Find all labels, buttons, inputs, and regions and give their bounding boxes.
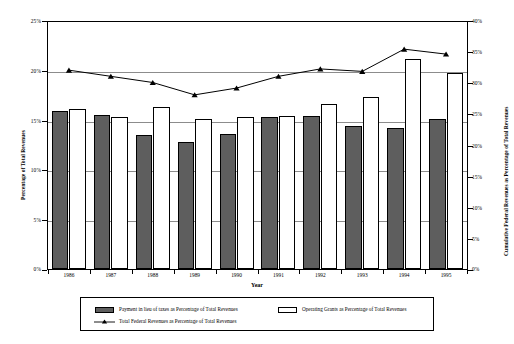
x-axis-label-1989: 1989 — [175, 272, 215, 278]
y-right-tick-10: 10% — [472, 205, 498, 211]
y-left-tick-5: 5% — [15, 217, 41, 223]
y-left-tick-20: 20% — [15, 68, 41, 74]
x-axis-label-1986: 1986 — [49, 272, 89, 278]
x-axis-label-1994: 1994 — [384, 272, 424, 278]
legend-swatch-operating-grants — [278, 307, 297, 313]
x-axis-label-1992: 1992 — [300, 272, 340, 278]
x-axis-title: Year — [0, 282, 514, 288]
y-left-tick-15: 15% — [15, 118, 41, 124]
y-right-tick-20: 20% — [472, 143, 498, 149]
y-right-tick-30: 30% — [472, 80, 498, 86]
y-axis-left-title: Percentage of Total Revenues — [20, 130, 26, 200]
x-axis-label-1991: 1991 — [258, 272, 298, 278]
legend-label-operating-grants: Operating Grants as Percentage of Total … — [302, 306, 406, 312]
legend-label-payment-in-lieu: Payment in lieu of taxes as Percentage o… — [119, 306, 238, 312]
x-axis-label-1990: 1990 — [217, 272, 257, 278]
legend-marker-total-federal-revenues — [94, 319, 115, 325]
chart-legend: Payment in lieu of taxes as Percentage o… — [80, 297, 434, 331]
y-right-tick-40: 40% — [472, 18, 498, 24]
y-right-tick-35: 35% — [472, 49, 498, 55]
x-axis-label-1993: 1993 — [342, 272, 382, 278]
y-left-tick-25: 25% — [15, 18, 41, 24]
chart-page: Percentage of Total Revenues Cumulative … — [0, 0, 514, 344]
legend-label-total-federal-revenues: Total Federal Revenues as Percentage of … — [119, 318, 236, 324]
y-right-tick-0: 0% — [472, 266, 498, 272]
line-series-layer — [48, 22, 467, 269]
y-left-tick-0: 0% — [15, 266, 41, 272]
y-right-tick-5: 5% — [472, 236, 498, 242]
x-tick — [467, 270, 468, 274]
legend-swatch-payment-in-lieu — [95, 307, 114, 313]
y-left-tick-10: 10% — [15, 167, 41, 173]
line-total-federal-revenues — [69, 49, 446, 95]
x-axis-label-1988: 1988 — [133, 272, 173, 278]
x-axis-label-1995: 1995 — [426, 272, 466, 278]
y-right-tick-25: 25% — [472, 111, 498, 117]
x-axis-label-1987: 1987 — [91, 272, 131, 278]
y-axis-right-title: Cumulative Federal Revenues as Percentag… — [503, 106, 509, 256]
y-right-tick-15: 15% — [472, 174, 498, 180]
